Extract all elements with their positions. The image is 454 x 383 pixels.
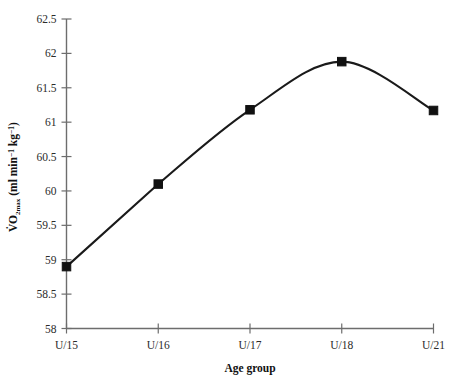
y-axis-title-sup-2: −1	[7, 126, 16, 134]
y-tick-label: 60	[45, 185, 57, 197]
data-point-marker	[338, 57, 347, 66]
x-tick-label: U/16	[147, 339, 170, 351]
y-tick-label: 61.5	[36, 82, 56, 94]
data-point-marker	[154, 180, 163, 189]
y-axis-title-sup-1: −1	[7, 149, 16, 157]
y-tick-label: 62	[45, 47, 57, 59]
data-point-marker	[429, 106, 438, 115]
y-axis-title-subscript: 2max	[14, 198, 22, 215]
y-tick-label: 58.5	[36, 288, 56, 300]
y-tick-label: 62.5	[36, 13, 56, 25]
x-tick-label: U/18	[330, 339, 353, 351]
y-axis-title-units-close: )	[7, 122, 20, 126]
y-axis-title-units-mid: kg	[7, 134, 20, 149]
y-axis-title-units-open: (ml min	[7, 156, 20, 198]
vo2max-line-chart: 5858.55959.56060.56161.56262.5 U/15U/16U…	[0, 0, 454, 383]
y-axis-title-o: O	[7, 215, 19, 224]
y-tick-label: 61	[45, 116, 57, 128]
data-point-marker	[62, 262, 71, 271]
x-tick-label: U/17	[239, 339, 262, 351]
y-tick-label: 60.5	[36, 151, 56, 163]
y-tick-label: 59	[45, 254, 57, 266]
y-tick-label: 59.5	[36, 219, 56, 231]
x-tick-label: U/15	[55, 339, 78, 351]
data-point-marker	[246, 106, 255, 115]
x-axis-title: Age group	[224, 362, 275, 375]
y-tick-label: 58	[45, 323, 57, 335]
x-tick-label: U/21	[422, 339, 445, 351]
chart-container: 5858.55959.56060.56161.56262.5 U/15U/16U…	[0, 0, 454, 383]
